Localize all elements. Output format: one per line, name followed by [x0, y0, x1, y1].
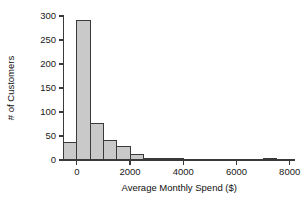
x-tick-label-4000: 4000	[173, 166, 194, 177]
x-axis-title-text: Average Monthly Spend ($)	[122, 182, 237, 193]
y-tick-label-50: 50	[45, 130, 56, 141]
x-tick-label-6000: 6000	[226, 166, 247, 177]
histogram-figure: 050100150200250300# of Customers02000400…	[0, 0, 306, 203]
histogram-bar	[64, 143, 77, 160]
y-axis: 050100150200250300	[40, 10, 63, 165]
histogram-bar	[117, 147, 130, 160]
bars-group	[64, 21, 277, 160]
histogram-bar	[103, 141, 116, 160]
y-tick-label-250: 250	[40, 34, 56, 45]
histogram-bar	[77, 21, 90, 160]
histogram-bar	[130, 155, 143, 160]
x-tick-label-2000: 2000	[119, 166, 140, 177]
histogram-bar	[90, 123, 103, 160]
y-tick-label-0: 0	[51, 154, 56, 165]
y-tick-label-150: 150	[40, 82, 56, 93]
y-tick-label-300: 300	[40, 10, 56, 21]
y-tick-label-100: 100	[40, 106, 56, 117]
x-axis: 02000400060008000	[64, 160, 301, 177]
y-axis-title: # of Customers	[5, 56, 16, 121]
y-axis-title-text: # of Customers	[5, 56, 16, 121]
y-tick-label-200: 200	[40, 58, 56, 69]
x-tick-label-0: 0	[74, 166, 79, 177]
x-tick-label-8000: 8000	[279, 166, 300, 177]
histogram-chart: 050100150200250300# of Customers02000400…	[0, 0, 306, 203]
